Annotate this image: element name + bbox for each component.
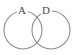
venn-diagram-figure: A D bbox=[0, 0, 75, 55]
venn-label-a: A bbox=[18, 4, 26, 16]
venn-label-d: D bbox=[42, 4, 50, 16]
venn-diagram-canvas: A D bbox=[0, 0, 75, 55]
